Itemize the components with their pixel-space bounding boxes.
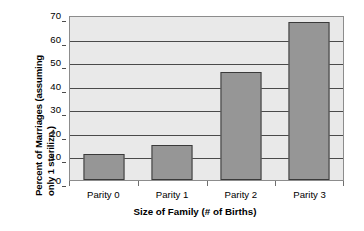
x-axis-tick-marks: [69, 181, 344, 186]
x-axis-tick-mark: [275, 181, 276, 186]
y-axis-tick-label: 60: [39, 35, 61, 45]
y-axis-tick-label: 70: [39, 11, 61, 21]
bar[interactable]: [288, 22, 329, 180]
bar-slot: [70, 17, 138, 180]
x-axis-tick-label: Parity 3: [275, 188, 344, 202]
x-axis-title: Size of Family (# of Births): [40, 206, 350, 217]
bar[interactable]: [84, 154, 125, 180]
x-axis-tick-label: Parity 2: [207, 188, 276, 202]
x-axis-tick-label: Parity 0: [69, 188, 138, 202]
y-axis-tick-mark: [62, 68, 66, 69]
y-axis-tick-labels: 010203040506070: [40, 11, 66, 187]
y-axis-tick-label: 40: [39, 82, 61, 92]
y-axis-tick-mark: [62, 45, 66, 46]
x-axis-tick-mark: [138, 181, 139, 186]
bar-chart-figure: Percent of Marriages (assuming only 1 st…: [0, 0, 364, 231]
y-axis-tick-label: 20: [39, 129, 61, 139]
bar-slot: [207, 17, 275, 180]
bar-slot: [138, 17, 206, 180]
bar-slot: [275, 17, 343, 180]
x-axis-tick-mark: [343, 181, 344, 186]
x-axis-tick-label: Parity 1: [138, 188, 207, 202]
bar[interactable]: [220, 72, 261, 180]
y-axis-tick-mark: [62, 139, 66, 140]
y-axis-tick-label: 50: [39, 58, 61, 68]
bar[interactable]: [152, 145, 193, 180]
x-axis-tick-labels: Parity 0Parity 1Parity 2Parity 3: [69, 188, 344, 202]
y-axis-tick-label: 30: [39, 105, 61, 115]
y-axis-tick-label: 0: [39, 176, 61, 186]
y-axis-tick-mark: [62, 92, 66, 93]
plot-area: [69, 16, 344, 181]
y-axis-title: Percent of Marriages (assuming only 1 st…: [0, 0, 40, 200]
x-axis-tick-mark: [69, 181, 70, 186]
bar-series: [70, 17, 343, 180]
y-axis-tick-mark: [62, 162, 66, 163]
y-axis-tick-label: 10: [39, 152, 61, 162]
y-axis-tick-mark: [62, 115, 66, 116]
y-axis-tick-mark: [62, 21, 66, 22]
x-axis-tick-mark: [207, 181, 208, 186]
y-axis-tick-mark: [62, 186, 66, 187]
